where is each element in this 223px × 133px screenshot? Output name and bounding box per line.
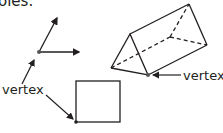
geometry-diagram [0,0,223,133]
vertex-label-right: vertex [183,69,223,82]
pointer-to-square-vertex [46,95,73,119]
angle-figure [37,18,79,54]
square-figure [74,81,120,124]
triangular-prism-figure [111,4,207,77]
vertex-label-left: vertex [2,83,44,96]
pointer-to-angle-vertex [22,60,34,84]
